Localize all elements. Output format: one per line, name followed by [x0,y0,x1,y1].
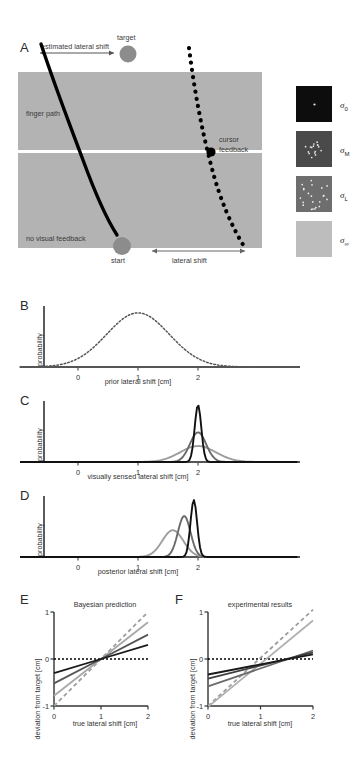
legend-speckle [312,201,314,203]
target-label: target [117,33,135,42]
legend-speckle [311,157,313,159]
panel-a-letter: A [20,40,29,55]
posterior-curves [20,500,298,557]
start-dot [113,237,131,255]
curve-sigma-0-posterior [20,500,298,557]
legend-speckle [308,153,310,155]
legend-speckle [320,150,322,152]
legend-swatch-sigma-L [296,176,332,212]
legend-speckle [313,145,315,147]
legend-speckle [318,146,320,148]
start-label: start [111,256,125,265]
y-tick-label: -1 [42,702,49,711]
legend-speckle [305,146,307,148]
tick-label: 2 [196,468,200,477]
legend-swatch-sigma-inf [296,221,332,257]
tick-label: 2 [196,563,200,572]
panel-e: E deviation from target [cm] Bayesian pr… [0,574,175,764]
lateral-shift-arrow [152,248,245,253]
legend-speckle [301,184,303,186]
panel-b-letter: B [20,298,29,313]
panel-e-lines [54,612,148,706]
prior-distribution-curve [20,313,298,367]
estimated-lateral-shift-arrow [40,50,114,55]
legend-speckle [316,141,318,143]
series-sigma-M [54,645,148,673]
panel-f-lines [208,610,313,707]
legend-label-sigma-inf: σ∞ [340,235,349,247]
figure-canvas: A finger path no visual feedback estimat… [0,0,350,764]
legend-speckle [303,188,305,190]
panel-c: C probability 012 visually sensed latera… [0,383,350,483]
panel-d-letter: D [20,488,29,503]
panel-f: F deviation from target [cm] experimenta… [170,574,350,764]
panel-b: B probability 012 prior lateral shift [c… [0,288,350,388]
legend-speckle [322,195,324,197]
x-tick-label: 0 [206,712,210,721]
x-tick-label: 2 [146,712,150,721]
legend-speckle [313,103,315,105]
legend-speckle [311,208,313,210]
legend-speckle [313,143,315,145]
y-tick-label: 1 [199,608,203,617]
y-tick-label: -1 [196,702,203,711]
panel-e-title: Bayesian prediction [74,600,137,609]
panel-f-title: experimental results [228,600,293,609]
legend-speckle [311,195,313,197]
x-tick-label: 2 [311,712,315,721]
legend-label-sigma-M: σM [340,145,349,157]
panel-f-xlabel: true lateral shift [cm] [228,719,293,728]
series-sigma-M [208,652,313,678]
legend-speckle [308,151,310,153]
legend-speckle [310,146,312,148]
no-visual-feedback-label: no visual feedback [26,234,86,243]
y-tick-label: 0 [45,655,49,664]
panel-a: A finger path no visual feedback estimat… [0,0,350,300]
legend-speckle [315,154,317,156]
panel-e-letter: E [20,592,29,607]
curve-sigma-L-likelihood [20,446,298,462]
curve-sigma-M-likelihood [20,432,298,462]
legend-label-sigma-0: σ0 [340,100,348,112]
legend-swatch-sigma-M [296,131,332,167]
legend-speckle [308,193,310,195]
curve-sigma-M-posterior [20,516,298,557]
finger-path-label: finger path [26,109,60,118]
lateral-shift-label: lateral shift [172,256,207,265]
panel-c-ylabel: probability [35,428,44,461]
legend-speckle [302,204,304,206]
panel-d-ylabel: probability [35,523,44,556]
cursor-feedback-label-1: cursor [219,135,240,144]
panel-f-letter: F [175,592,183,607]
legend-label-sigma-L: σL [340,190,348,202]
panel-e-ylabel: deviation from target [cm] [33,658,42,739]
panel-f-ylabel: deviation from target [cm] [188,658,197,739]
legend-speckle [310,180,312,182]
tick-label: 0 [76,373,80,382]
y-tick-label: 1 [45,608,49,617]
likelihood-curves [20,406,298,462]
legend-speckle [319,201,321,203]
estimated-lateral-shift-label: estimated lateral shift [41,42,109,51]
legend-speckle [314,208,316,210]
curve-sigma-L-posterior [20,530,298,557]
curve-sigma-0-likelihood [20,406,298,462]
tick-label: 0 [76,563,80,572]
legend-speckle [314,152,316,154]
cursor-feedback-label-2: feedback [219,145,249,154]
legend-speckle [300,197,302,199]
legend-speckle [302,202,304,204]
tick-label: 0 [76,468,80,477]
panel-e-xlabel: true lateral shift [cm] [73,719,138,728]
legend-speckle [317,144,319,146]
legend-speckle [321,187,323,189]
panel-c-letter: C [20,393,29,408]
cursor-feedback-dot [206,147,215,156]
target-dot [120,46,137,63]
legend-speckle [326,199,328,201]
panel-d: D probability 012 posterior lateral shif… [0,478,350,578]
sigma-legend: σ0σMσLσ∞ [296,86,349,257]
legend-speckle [311,184,313,186]
tick-label: 2 [196,373,200,382]
y-tick-label: 0 [199,655,203,664]
